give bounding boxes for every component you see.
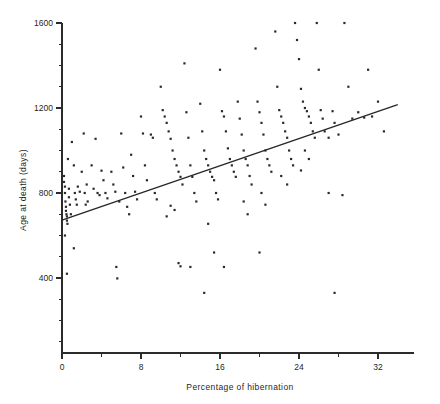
data-point xyxy=(146,179,148,181)
data-point xyxy=(130,154,132,156)
data-point xyxy=(219,69,221,71)
data-point xyxy=(81,171,83,173)
data-points xyxy=(63,22,385,294)
data-point xyxy=(308,158,310,160)
scatter-plot-figure: 4008001200160008162432 Percentage of hib… xyxy=(0,0,440,404)
data-point xyxy=(76,204,78,206)
data-point xyxy=(73,247,75,249)
x-tick-label: 32 xyxy=(373,362,383,372)
data-point xyxy=(314,137,316,139)
data-point xyxy=(124,192,126,194)
y-axis-title: Age at death (days) xyxy=(18,149,28,231)
data-point xyxy=(221,110,223,112)
data-point xyxy=(112,183,114,185)
data-point xyxy=(126,206,128,208)
data-point xyxy=(288,149,290,151)
data-point xyxy=(170,205,172,207)
data-point xyxy=(140,115,142,117)
data-point xyxy=(260,122,262,124)
data-point xyxy=(274,30,276,32)
axis-lines xyxy=(62,23,414,353)
data-point xyxy=(183,62,185,64)
data-point xyxy=(383,130,385,132)
data-point xyxy=(241,133,243,135)
data-point xyxy=(217,198,219,200)
data-point xyxy=(243,200,245,202)
data-point xyxy=(331,110,333,112)
data-point xyxy=(316,22,318,24)
data-point xyxy=(328,192,330,194)
data-point xyxy=(162,109,164,111)
data-point xyxy=(93,188,95,190)
data-point xyxy=(304,107,306,109)
data-point xyxy=(266,158,268,160)
data-point xyxy=(268,164,270,166)
data-point xyxy=(173,158,175,160)
y-tick-label: 1200 xyxy=(34,103,53,113)
data-point xyxy=(100,170,102,172)
data-point xyxy=(377,101,379,103)
data-point xyxy=(74,192,76,194)
data-point xyxy=(150,133,152,135)
data-point xyxy=(306,110,308,112)
data-point xyxy=(96,192,98,194)
data-point xyxy=(223,115,225,117)
data-point xyxy=(264,204,266,206)
data-point xyxy=(209,171,211,173)
y-tick-label: 400 xyxy=(39,273,53,283)
data-point xyxy=(136,198,138,200)
regression-line xyxy=(62,105,398,221)
data-point xyxy=(337,133,339,135)
data-point xyxy=(223,266,225,268)
data-point xyxy=(276,86,278,88)
data-point xyxy=(213,179,215,181)
data-point xyxy=(284,130,286,132)
data-point xyxy=(75,198,77,200)
data-point xyxy=(343,22,345,24)
data-point xyxy=(187,137,189,139)
data-point xyxy=(320,109,322,111)
data-point xyxy=(280,115,282,117)
data-point xyxy=(64,192,66,194)
data-point xyxy=(256,101,258,103)
data-point xyxy=(260,192,262,194)
data-point xyxy=(156,198,158,200)
data-point xyxy=(85,204,87,206)
data-point xyxy=(308,115,310,117)
data-point xyxy=(104,192,106,194)
data-point xyxy=(262,133,264,135)
data-point xyxy=(367,69,369,71)
data-point xyxy=(201,130,203,132)
data-point xyxy=(203,149,205,151)
data-point xyxy=(68,188,70,190)
data-point xyxy=(65,206,67,208)
data-point xyxy=(296,39,298,41)
data-point xyxy=(91,164,93,166)
data-point xyxy=(173,209,175,211)
data-point xyxy=(239,118,241,120)
data-point xyxy=(73,164,75,166)
data-point xyxy=(195,200,197,202)
data-point xyxy=(282,122,284,124)
x-axis-title: Percentage of hibernation xyxy=(186,382,293,392)
data-point xyxy=(322,118,324,120)
data-point xyxy=(64,186,66,188)
data-point xyxy=(211,176,213,178)
data-point xyxy=(68,196,70,198)
data-point xyxy=(193,192,195,194)
data-point xyxy=(177,262,179,264)
data-point xyxy=(168,130,170,132)
data-point xyxy=(237,101,239,103)
data-point xyxy=(312,130,314,132)
data-point xyxy=(189,164,191,166)
data-point xyxy=(87,200,89,202)
data-point xyxy=(128,213,130,215)
data-point xyxy=(207,223,209,225)
data-point xyxy=(144,164,146,166)
data-point xyxy=(357,111,359,113)
data-point xyxy=(83,132,85,134)
data-point xyxy=(207,164,209,166)
data-point xyxy=(116,277,118,279)
x-tick-label: 24 xyxy=(294,362,304,372)
data-point xyxy=(64,234,66,236)
